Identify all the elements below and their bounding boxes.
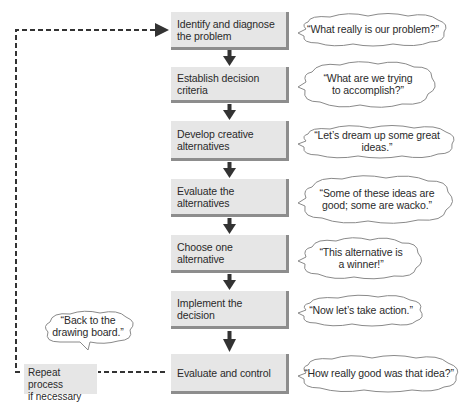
- decision-process-diagram: Identify and diagnose the problem Establ…: [0, 0, 474, 406]
- step-label: Develop creative alternatives: [177, 128, 280, 152]
- step-choose-alternative: Choose one alternative: [171, 235, 289, 273]
- step-implement-decision: Implement the decision: [171, 291, 289, 329]
- step-label: Evaluate and control: [177, 367, 271, 379]
- step-label: Implement the decision: [177, 297, 280, 321]
- step-label: Choose one alternative: [177, 241, 280, 265]
- thought-text: “Now let’s take action.”: [298, 294, 424, 326]
- step-establish-criteria: Establish decision criteria: [171, 67, 289, 103]
- arrow-down-icon: [223, 331, 236, 352]
- thought-cloud-6: “Now let’s take action.”: [298, 294, 424, 326]
- step-evaluate-control: Evaluate and control: [171, 354, 289, 394]
- thought-text: “Some of these ideas are good; some are …: [298, 174, 456, 224]
- thought-text: “How really good was that idea?”: [298, 354, 460, 392]
- arrow-down-icon: [223, 274, 236, 290]
- step-label: Identify and diagnose the problem: [177, 18, 280, 42]
- thought-cloud-feedback: “Back to the drawing board.”: [40, 310, 136, 350]
- thought-cloud-2: “What are we trying to accomplish?”: [298, 60, 438, 108]
- thought-text: “Back to the drawing board.”: [40, 310, 136, 342]
- arrow-down-icon: [223, 218, 236, 234]
- thought-cloud-1: “What really is our problem?”: [298, 12, 448, 46]
- thought-cloud-5: “This alternative is a winner!”: [298, 236, 424, 280]
- thought-text: “What really is our problem?”: [298, 12, 448, 46]
- repeat-process-box: Repeat process if necessary: [24, 364, 97, 394]
- step-develop-alternatives: Develop creative alternatives: [171, 121, 289, 161]
- arrow-down-icon: [223, 50, 236, 66]
- thought-cloud-4: “Some of these ideas are good; some are …: [298, 174, 456, 224]
- step-identify-problem: Identify and diagnose the problem: [171, 12, 289, 50]
- thought-text: “Let’s dream up some great ideas.”: [298, 124, 456, 158]
- thought-cloud-7: “How really good was that idea?”: [298, 354, 460, 392]
- step-label: Establish decision criteria: [177, 72, 280, 96]
- thought-text: “This alternative is a winner!”: [298, 236, 424, 280]
- thought-cloud-3: “Let’s dream up some great ideas.”: [298, 124, 456, 158]
- arrow-down-icon: [223, 104, 236, 120]
- repeat-process-label: Repeat process if necessary: [28, 367, 81, 402]
- step-evaluate-alternatives: Evaluate the alternatives: [171, 179, 289, 217]
- arrow-down-icon: [223, 162, 236, 178]
- thought-text: “What are we trying to accomplish?”: [298, 60, 438, 108]
- feedback-arrowhead-icon: [155, 23, 169, 37]
- step-label: Evaluate the alternatives: [177, 185, 280, 209]
